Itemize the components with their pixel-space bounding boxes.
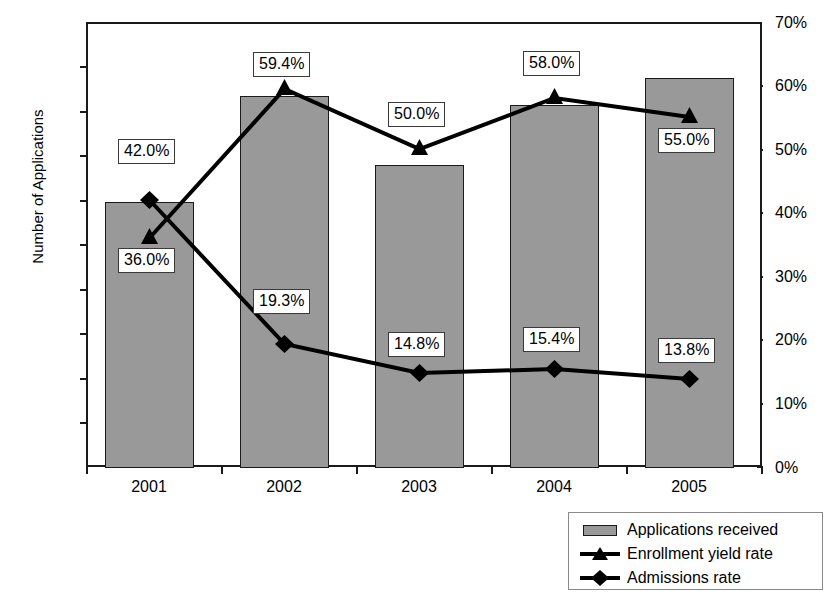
callout-admissions-2001: 42.0% <box>118 139 175 164</box>
legend-item-applications-received[interactable]: Applications received <box>569 518 822 542</box>
callout-yield-2005: 55.0% <box>658 128 715 153</box>
y2-tick-10: 10% <box>775 396 839 412</box>
x-label-2003: 2003 <box>374 478 464 496</box>
callout-yield-2001: 36.0% <box>118 248 175 273</box>
y-axis-title: Number of Applications <box>29 67 46 307</box>
bar-2003[interactable] <box>375 165 464 468</box>
x-tickmark-1 <box>221 467 223 474</box>
callout-yield-2004: 58.0% <box>523 51 580 76</box>
x-tickmark-0 <box>86 467 88 474</box>
y2-tick-20: 20% <box>775 332 839 348</box>
callout-admissions-2002: 19.3% <box>253 289 310 314</box>
y2-tick-70: 70% <box>775 15 839 31</box>
chart-container: Number of Applications 200 180 160 140 1… <box>0 0 839 601</box>
bar-swatch-icon <box>579 521 621 539</box>
bar-2001[interactable] <box>105 202 194 468</box>
x-tickmark-3 <box>491 467 493 474</box>
callout-admissions-2003: 14.8% <box>388 332 445 357</box>
legend-item-admissions-rate[interactable]: Admissions rate <box>569 566 822 590</box>
y2-tick-50: 50% <box>775 142 839 158</box>
legend-label-enrollment-yield-rate: Enrollment yield rate <box>627 546 773 562</box>
legend: Applications received Enrollment yield r… <box>568 512 823 590</box>
x-tickmark-4 <box>626 467 628 474</box>
callout-yield-2003: 50.0% <box>388 102 445 127</box>
y2-tick-0: 0% <box>775 460 839 476</box>
legend-item-enrollment-yield-rate[interactable]: Enrollment yield rate <box>569 542 822 566</box>
x-tickmark-2 <box>356 467 358 474</box>
callout-admissions-2004: 15.4% <box>523 327 580 352</box>
legend-label-applications-received: Applications received <box>627 522 778 538</box>
callout-admissions-2005: 13.8% <box>658 338 715 363</box>
line-triangle-icon <box>579 545 621 563</box>
x-label-2001: 2001 <box>104 478 194 496</box>
x-label-2004: 2004 <box>509 478 599 496</box>
legend-label-admissions-rate: Admissions rate <box>627 570 741 586</box>
bar-2004[interactable] <box>510 105 599 468</box>
callout-yield-2002: 59.4% <box>253 52 310 77</box>
y2-tick-60: 60% <box>775 78 839 94</box>
bar-2002[interactable] <box>240 96 329 468</box>
x-label-2002: 2002 <box>239 478 329 496</box>
y2-tick-30: 30% <box>775 269 839 285</box>
x-label-2005: 2005 <box>644 478 734 496</box>
y2-tick-40: 40% <box>775 205 839 221</box>
x-tickmark-5 <box>761 467 763 474</box>
line-diamond-icon <box>579 569 621 587</box>
